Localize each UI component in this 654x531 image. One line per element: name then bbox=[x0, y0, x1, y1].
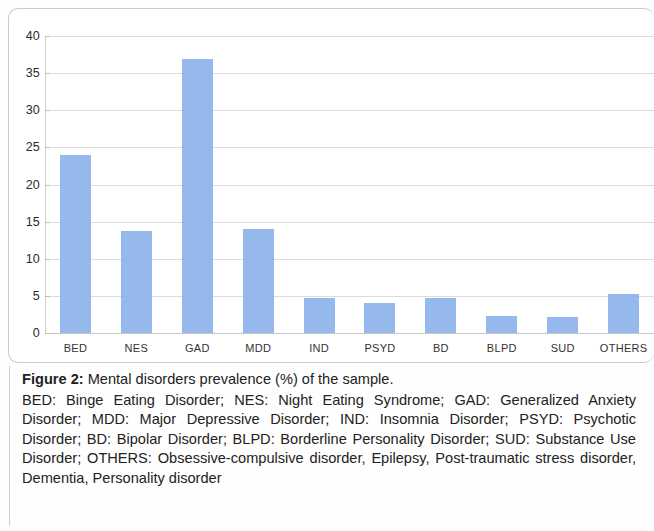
x-label-mdd: MDD bbox=[228, 337, 289, 361]
bar-slot bbox=[228, 36, 289, 333]
bar-slot bbox=[471, 36, 532, 333]
caption-left-rule bbox=[9, 366, 10, 526]
bar-mdd bbox=[243, 229, 274, 333]
y-tick-label: 20 bbox=[10, 178, 40, 192]
y-tick-mark bbox=[45, 333, 50, 334]
bar-blpd bbox=[486, 316, 517, 333]
bar-slot bbox=[167, 36, 228, 333]
y-tick-label: 40 bbox=[10, 29, 40, 43]
x-label-nes: NES bbox=[106, 337, 167, 361]
y-tick-label: 10 bbox=[10, 252, 40, 266]
y-tick-label: 5 bbox=[10, 289, 40, 303]
figure-label: Figure 2: bbox=[22, 371, 84, 387]
y-tick-label: 15 bbox=[10, 215, 40, 229]
y-tick-label: 25 bbox=[10, 140, 40, 154]
y-tick-label: 0 bbox=[10, 326, 40, 340]
x-label-sud: SUD bbox=[532, 337, 593, 361]
bars-group bbox=[45, 36, 654, 333]
y-tick-label: 35 bbox=[10, 66, 40, 80]
caption-title-line: Figure 2: Mental disorders prevalence (%… bbox=[22, 370, 636, 390]
chart-panel: 0510152025303540 BEDNESGADMDDINDPSYDBDBL… bbox=[8, 8, 654, 363]
gridline bbox=[45, 333, 654, 334]
bar-slot bbox=[45, 36, 106, 333]
x-label-others: OTHERS bbox=[593, 337, 654, 361]
bar-bed bbox=[60, 155, 91, 333]
x-label-blpd: BLPD bbox=[471, 337, 532, 361]
bar-bd bbox=[425, 298, 456, 333]
bar-ind bbox=[304, 298, 335, 333]
bar-slot bbox=[350, 36, 411, 333]
x-label-bed: BED bbox=[45, 337, 106, 361]
x-axis-category-labels: BEDNESGADMDDINDPSYDBDBLPDSUDOTHERS bbox=[45, 337, 654, 361]
bar-sud bbox=[547, 317, 578, 333]
x-label-ind: IND bbox=[289, 337, 350, 361]
y-tick-label: 30 bbox=[10, 103, 40, 117]
bar-psyd bbox=[364, 303, 395, 333]
bar-nes bbox=[121, 231, 152, 333]
bar-others bbox=[608, 294, 639, 333]
figure-caption: Figure 2: Mental disorders prevalence (%… bbox=[22, 370, 636, 488]
bar-gad bbox=[182, 59, 213, 333]
y-axis-tick-labels: 0510152025303540 bbox=[9, 36, 40, 333]
bar-slot bbox=[106, 36, 167, 333]
bar-slot bbox=[532, 36, 593, 333]
x-label-psyd: PSYD bbox=[350, 337, 411, 361]
caption-abbreviations: BED: Binge Eating Disorder; NES: Night E… bbox=[22, 391, 636, 489]
bar-slot bbox=[289, 36, 350, 333]
x-label-bd: BD bbox=[410, 337, 471, 361]
x-label-gad: GAD bbox=[167, 337, 228, 361]
figure-title-text: Mental disorders prevalence (%) of the s… bbox=[84, 371, 394, 387]
bar-slot bbox=[593, 36, 654, 333]
bar-slot bbox=[410, 36, 471, 333]
